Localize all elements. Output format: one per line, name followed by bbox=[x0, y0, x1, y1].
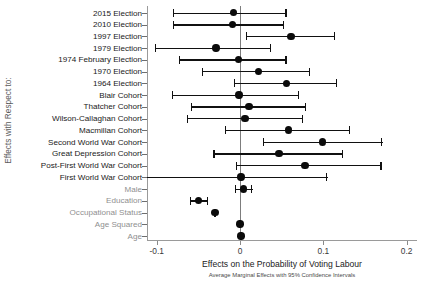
coefficient-plot-figure: Effects with Respect to: 2015 Election20… bbox=[0, 0, 424, 289]
estimate-row bbox=[147, 66, 417, 77]
category-label: 1997 Election bbox=[16, 32, 142, 41]
confidence-interval-cap-low bbox=[190, 197, 191, 205]
y-axis-tick bbox=[142, 142, 147, 143]
estimate-row bbox=[147, 219, 417, 230]
category-label: 1964 Election bbox=[16, 79, 142, 88]
y-axis-tick bbox=[142, 177, 147, 178]
category-label: Male bbox=[16, 185, 142, 194]
category-label: 2015 Election bbox=[16, 9, 142, 18]
category-label: First World War Cohort bbox=[16, 173, 142, 182]
point-estimate-marker bbox=[236, 220, 243, 227]
category-label-list: 2015 Election2010 Election1997 Election1… bbox=[16, 0, 142, 240]
estimate-row bbox=[147, 148, 417, 159]
estimate-row bbox=[147, 172, 417, 183]
confidence-interval-cap-high bbox=[326, 173, 327, 181]
x-axis-tick-label: 0.2 bbox=[387, 246, 424, 256]
estimate-row bbox=[147, 231, 417, 242]
category-label: Age Squared bbox=[16, 220, 142, 229]
confidence-interval-cap-low bbox=[234, 79, 235, 87]
point-estimate-marker bbox=[283, 80, 290, 87]
estimate-row bbox=[147, 90, 417, 101]
estimate-row bbox=[147, 125, 417, 136]
plot-area bbox=[147, 6, 417, 240]
confidence-interval-cap-high bbox=[342, 150, 343, 158]
y-axis-tick bbox=[142, 201, 147, 202]
point-estimate-marker bbox=[255, 68, 262, 75]
confidence-interval-cap-low bbox=[213, 150, 214, 158]
x-axis-tick-label: 0.1 bbox=[303, 246, 343, 256]
confidence-interval-cap-low bbox=[172, 91, 173, 99]
x-axis-tick bbox=[323, 241, 324, 245]
confidence-interval-cap-high bbox=[309, 68, 310, 76]
confidence-interval-cap-high bbox=[270, 44, 271, 52]
estimate-row bbox=[147, 137, 417, 148]
confidence-interval-bar bbox=[236, 165, 382, 166]
point-estimate-marker bbox=[240, 185, 247, 192]
confidence-interval-cap-high bbox=[285, 56, 286, 64]
confidence-interval-cap-low bbox=[263, 138, 264, 146]
point-estimate-marker bbox=[245, 103, 252, 110]
point-estimate-marker bbox=[237, 173, 244, 180]
confidence-interval-cap-low bbox=[225, 126, 226, 134]
confidence-interval-cap-low bbox=[191, 103, 192, 111]
category-label: 1979 Election bbox=[16, 44, 142, 53]
y-axis-tick bbox=[142, 236, 147, 237]
confidence-interval-cap-high bbox=[207, 197, 208, 205]
y-axis-tick bbox=[142, 72, 147, 73]
y-axis-tick bbox=[142, 166, 147, 167]
point-estimate-marker bbox=[195, 197, 202, 204]
confidence-interval-cap-low bbox=[187, 115, 188, 123]
point-estimate-marker bbox=[235, 91, 242, 98]
point-estimate-marker bbox=[230, 9, 237, 16]
confidence-interval-cap-low bbox=[236, 162, 237, 170]
point-estimate-marker bbox=[285, 126, 292, 133]
x-axis-tick-label: -0.1 bbox=[137, 246, 177, 256]
estimate-row bbox=[147, 78, 417, 89]
x-axis-tick bbox=[157, 241, 158, 245]
estimate-row bbox=[147, 43, 417, 54]
category-label: 2010 Election bbox=[16, 20, 142, 29]
point-estimate-marker bbox=[319, 138, 326, 145]
y-axis-tick bbox=[142, 83, 147, 84]
y-axis-tick bbox=[142, 107, 147, 108]
category-label: Post-First World War Cohort bbox=[16, 161, 142, 170]
category-label: Macmillan Cohort bbox=[16, 126, 142, 135]
confidence-interval-cap-low bbox=[173, 9, 174, 17]
estimate-row bbox=[147, 19, 417, 30]
confidence-interval-cap-high bbox=[298, 91, 299, 99]
point-estimate-marker bbox=[229, 21, 236, 28]
y-axis-tick bbox=[142, 213, 147, 214]
chart-note: Average Marginal Effects with 95% Confid… bbox=[147, 272, 417, 278]
confidence-interval-bar bbox=[179, 59, 287, 60]
confidence-interval-cap-low bbox=[246, 32, 247, 40]
confidence-interval-cap-high bbox=[305, 103, 306, 111]
y-axis-tick bbox=[142, 130, 147, 131]
confidence-interval-cap-low bbox=[173, 21, 174, 29]
confidence-interval-cap-high bbox=[251, 185, 252, 193]
y-axis-tick bbox=[142, 119, 147, 120]
confidence-interval-cap-high bbox=[336, 79, 337, 87]
y-axis-title-text: Effects with Respect to: bbox=[4, 77, 13, 164]
estimate-row bbox=[147, 31, 417, 42]
category-label: Age bbox=[16, 232, 142, 241]
point-estimate-marker bbox=[235, 56, 242, 63]
point-estimate-marker bbox=[211, 209, 218, 216]
confidence-interval-cap-low bbox=[235, 185, 236, 193]
x-axis-title: Effects on the Probability of Voting Lab… bbox=[147, 259, 417, 269]
confidence-interval-cap-high bbox=[380, 162, 381, 170]
category-label: 1970 Election bbox=[16, 67, 142, 76]
point-estimate-marker bbox=[275, 150, 282, 157]
estimate-row bbox=[147, 184, 417, 195]
estimate-row bbox=[147, 54, 417, 65]
estimate-row bbox=[147, 8, 417, 19]
estimate-row bbox=[147, 160, 417, 171]
y-axis-tick bbox=[142, 25, 147, 26]
point-estimate-marker bbox=[241, 115, 248, 122]
estimate-row bbox=[147, 207, 417, 218]
point-estimate-marker bbox=[237, 232, 244, 239]
category-label: Occupational Status bbox=[16, 208, 142, 217]
point-estimate-marker bbox=[212, 44, 219, 51]
confidence-interval-cap-high bbox=[334, 32, 335, 40]
estimate-row bbox=[147, 195, 417, 206]
confidence-interval-cap-low bbox=[202, 68, 203, 76]
